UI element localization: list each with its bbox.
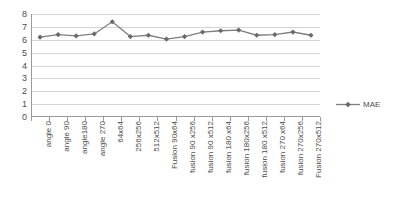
x-category-label: angle 270	[98, 121, 107, 156]
data-point-marker	[146, 33, 151, 38]
data-point-marker	[164, 37, 169, 42]
x-category-label: fusion 180 x64	[224, 121, 233, 173]
mae-line-chart: 876543210 angle 0angle 90angle180angle 2…	[0, 0, 399, 206]
legend-label-mae: MAE	[363, 100, 380, 109]
x-category-label: angle 90	[62, 121, 71, 152]
y-axis-tick-labels: 876543210	[0, 9, 31, 125]
y-tick-label: 8	[1, 10, 27, 19]
data-point-marker	[218, 28, 223, 33]
x-category-label: fusion 90 x256	[188, 121, 197, 173]
data-point-marker	[200, 29, 205, 34]
y-tick-label: 5	[1, 49, 27, 58]
data-point-marker	[74, 33, 79, 38]
x-category-label: Fusion 270x512	[314, 121, 323, 178]
x-category-label: 256x256	[134, 121, 143, 152]
x-category-label: fusion 270x256	[296, 121, 305, 175]
x-category-label: fusion 270 x64	[278, 121, 287, 173]
data-point-marker	[182, 34, 187, 39]
x-category-label: fusion 90 x512	[206, 121, 215, 173]
chart-legend: MAE	[336, 100, 380, 109]
plot-area	[31, 14, 320, 117]
y-tick-label: 3	[1, 74, 27, 83]
x-category-label: Fusion 90x64	[170, 121, 179, 169]
x-category-label: angle 0	[44, 121, 53, 147]
x-category-label: angle180	[80, 121, 89, 154]
x-category-label: 64x64	[116, 121, 125, 143]
y-tick-label: 2	[1, 87, 27, 96]
y-tick-label: 4	[1, 62, 27, 71]
data-point-marker	[254, 33, 259, 38]
x-category-label: fusion 180 x512	[260, 121, 269, 178]
data-point-marker	[236, 27, 241, 32]
x-category-label: fusion 180x256	[242, 121, 251, 175]
x-axis-category-labels: angle 0angle 90angle180angle 27064x64256…	[31, 121, 320, 206]
legend-marker-mae	[336, 100, 360, 109]
data-point-marker	[37, 35, 42, 40]
data-point-marker	[55, 32, 60, 37]
y-tick-label: 0	[1, 113, 27, 122]
data-point-marker	[308, 33, 313, 38]
x-category-label: 512x512	[152, 121, 161, 152]
y-tick-label: 6	[1, 36, 27, 45]
data-point-marker	[272, 32, 277, 37]
series-line	[40, 22, 311, 39]
series-mae	[31, 14, 320, 117]
data-point-marker	[290, 29, 295, 34]
y-tick-label: 7	[1, 23, 27, 32]
y-tick-label: 1	[1, 100, 27, 109]
